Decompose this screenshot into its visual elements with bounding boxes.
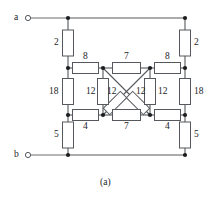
resistor-r-right-bot xyxy=(180,122,191,148)
resistor-r-right-mid xyxy=(180,79,191,105)
resistor-label-r-bot-right-4: 4 xyxy=(165,122,170,132)
mid-lower-left-node xyxy=(66,113,70,117)
terminal-b-circle[interactable] xyxy=(25,152,30,157)
resistor-r-top-left-8 xyxy=(73,63,99,74)
resistor-label-r-left-mid: 18 xyxy=(49,87,59,97)
resistor-label-r-right-bot: 5 xyxy=(194,130,199,140)
resistor-label-r-right-mid: 18 xyxy=(194,87,204,97)
resistor-r-left-bot xyxy=(63,122,74,148)
circuit-schematic xyxy=(0,0,218,199)
resistor-label-r-bridge-left-12: 12 xyxy=(86,87,96,97)
resistor-label-r-top-left-8: 8 xyxy=(83,52,88,62)
resistor-label-r-bot-mid-7: 7 xyxy=(124,122,129,132)
resistor-r-top-right-8 xyxy=(155,63,181,74)
top-left-node xyxy=(66,16,70,20)
mid-lower-right-node xyxy=(183,113,187,117)
bridge-top-right-node xyxy=(148,66,152,70)
resistor-r-left-mid xyxy=(63,79,74,105)
top-right-node xyxy=(183,16,187,20)
resistor-label-r-right-top: 2 xyxy=(194,38,199,48)
resistor-label-r-bot-left-4: 4 xyxy=(83,122,88,132)
resistor-r-bot-mid-7 xyxy=(113,110,141,121)
bottom-right-node xyxy=(183,153,187,157)
figure-caption: (a) xyxy=(100,178,111,188)
resistor-r-right-top xyxy=(180,30,191,56)
resistor-label-r-top-right-8: 8 xyxy=(165,52,170,62)
resistor-label-r-bridge-right-12: 12 xyxy=(158,87,168,97)
terminal-b-label: b xyxy=(14,150,19,160)
bridge-bottom-right-node xyxy=(148,113,152,117)
resistor-label-r-top-mid-7: 7 xyxy=(124,52,129,62)
resistor-label-r-left-top: 2 xyxy=(54,38,59,48)
bridge-top-left-node xyxy=(101,66,105,70)
resistor-r-bot-left-4 xyxy=(73,110,99,121)
circuit-figure: a b 2218185587847412121212 (a) xyxy=(0,0,218,199)
resistor-label-r-left-bot: 5 xyxy=(54,130,59,140)
resistor-r-bot-right-4 xyxy=(155,110,181,121)
mid-upper-left-node xyxy=(66,66,70,70)
resistor-label-diag-tr-bl: 12 xyxy=(107,87,117,97)
terminal-a-circle[interactable] xyxy=(25,15,30,20)
mid-upper-right-node xyxy=(183,66,187,70)
resistor-r-left-top xyxy=(63,30,74,56)
bottom-left-node xyxy=(66,153,70,157)
resistor-r-top-mid-7 xyxy=(113,63,141,74)
resistor-r-bridge-right-12 xyxy=(145,79,156,105)
resistor-label-diag-tl-br: 12 xyxy=(136,87,146,97)
bridge-bottom-left-node xyxy=(101,113,105,117)
terminal-a-label: a xyxy=(14,13,18,23)
